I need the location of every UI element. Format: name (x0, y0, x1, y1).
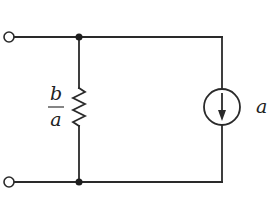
resistor-zigzag-icon (73, 88, 85, 126)
arrow-down-icon (218, 110, 226, 121)
bottom-node-dot-icon (76, 179, 83, 186)
resistor-label-numerator: b (50, 82, 62, 104)
terminal-top-left-icon (4, 32, 14, 42)
current-source (204, 89, 240, 125)
top-node-dot-icon (76, 34, 83, 41)
circuit-diagram: b a a (0, 0, 278, 211)
current-source-label: a (256, 95, 267, 117)
terminal-bottom-left-icon (4, 177, 14, 187)
resistor-label: b a (48, 82, 64, 130)
resistor-label-denominator: a (50, 108, 61, 130)
resistor (73, 37, 85, 182)
